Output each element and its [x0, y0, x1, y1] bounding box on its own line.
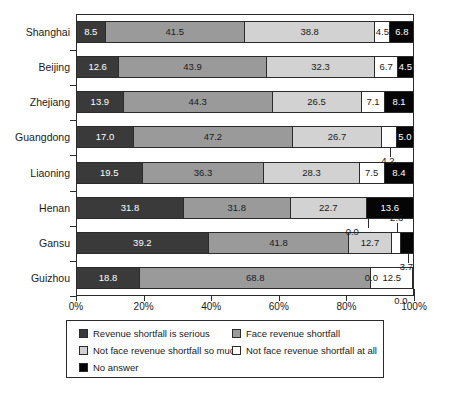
bar-value-label: 41.5 — [166, 27, 185, 37]
y-axis-tick — [70, 85, 76, 86]
bar-value-label: 26.7 — [328, 132, 347, 142]
bar-segment: 4.5 — [398, 57, 413, 77]
bar-value-label: 31.8 — [121, 203, 140, 213]
bar-value-label: 5.0 — [398, 132, 411, 142]
bar-segment: 4.5 — [375, 22, 390, 42]
stacked-bar-henan: 31.831.822.70.013.6 — [76, 197, 414, 219]
bar-value-label: 26.5 — [307, 97, 326, 107]
legend-swatch — [79, 329, 88, 338]
bar-value-label: 12.7 — [361, 238, 380, 248]
row-label-liaoning: Liaoning — [0, 168, 70, 179]
chart-legend: Revenue shortfall is seriousFace revenue… — [66, 320, 384, 378]
stacked-bar-chart: Shanghai8.541.538.84.56.8Beijing12.643.9… — [0, 0, 450, 393]
x-axis-tick-label: 100% — [394, 302, 434, 312]
legend-item: Revenue shortfall is serious — [79, 329, 210, 339]
row-label-guangdong: Guangdong — [0, 132, 70, 143]
bar-value-label: 0.0 — [365, 273, 378, 283]
bar-segment: 68.8 — [140, 268, 371, 288]
bar-value-label: 13.9 — [91, 97, 110, 107]
stacked-bar-beijing: 12.643.932.36.74.5 — [76, 56, 414, 78]
bar-value-label: 8.4 — [392, 168, 405, 178]
bar-segment: 44.3 — [124, 92, 273, 112]
legend-item: Not face revenue shortfall so much — [79, 346, 240, 356]
bar-segment: 41.5 — [106, 22, 245, 42]
bar-value-label: 43.9 — [183, 62, 202, 72]
bar-value-label: 19.5 — [100, 168, 119, 178]
bar-segment: 2.6 — [392, 233, 401, 253]
bar-segment: 6.7 — [375, 57, 398, 77]
legend-item: Not face revenue shortfall at all — [232, 346, 377, 356]
stacked-bar-shanghai: 8.541.538.84.56.8 — [76, 21, 414, 43]
legend-swatch — [79, 363, 88, 372]
x-axis-tick-label: 40% — [191, 302, 231, 312]
bar-segment: 8.4 — [385, 163, 413, 183]
bar-value-label: 41.8 — [269, 238, 288, 248]
callout-leader-line — [368, 219, 369, 228]
legend-item: No answer — [79, 363, 138, 373]
x-axis-tick-label: 0% — [56, 302, 96, 312]
bar-segment: 26.7 — [293, 127, 383, 147]
bar-value-label: 6.7 — [379, 62, 392, 72]
stacked-bar-guizhou: 18.868.80.012.50.0 — [76, 267, 414, 289]
bar-segment: 8.5 — [77, 22, 106, 42]
stacked-bar-zhejiang: 13.944.326.57.18.1 — [76, 91, 414, 113]
bar-segment: 28.3 — [264, 163, 359, 183]
callout-value-label: 0.0 — [346, 227, 359, 237]
row-label-shanghai: Shanghai — [0, 27, 70, 38]
y-axis-tick — [70, 261, 76, 262]
callout-value-label: 3.7 — [400, 262, 413, 272]
y-axis-tick — [70, 226, 76, 227]
legend-label: No answer — [93, 363, 138, 373]
bar-value-label: 31.8 — [228, 203, 247, 213]
bar-value-label: 12.6 — [88, 62, 107, 72]
legend-swatch — [79, 346, 88, 355]
bar-value-label: 32.3 — [311, 62, 330, 72]
bar-value-label: 7.5 — [365, 168, 378, 178]
y-axis-tick — [70, 191, 76, 192]
bar-value-label: 36.3 — [194, 168, 213, 178]
bar-value-label: 22.7 — [319, 203, 338, 213]
row-label-beijing: Beijing — [0, 62, 70, 73]
bar-value-label: 13.6 — [381, 203, 400, 213]
legend-label: Not face revenue shortfall so much — [93, 346, 240, 356]
bar-segment: 38.8 — [245, 22, 375, 42]
bar-value-label: 7.1 — [366, 97, 379, 107]
row-label-zhejiang: Zhejiang — [0, 97, 70, 108]
y-axis-tick — [70, 50, 76, 51]
bar-segment: 13.9 — [77, 92, 124, 112]
callout-leader-line — [397, 223, 398, 232]
bar-segment: 36.3 — [143, 163, 265, 183]
bar-value-label: 44.3 — [188, 97, 207, 107]
legend-label: Not face revenue shortfall at all — [246, 346, 377, 356]
callout-value-label: 4.2 — [381, 156, 394, 166]
bar-value-label: 68.8 — [246, 273, 265, 283]
bar-value-label: 47.2 — [204, 132, 223, 142]
bar-value-label: 28.3 — [302, 168, 321, 178]
bar-segment: 39.2 — [77, 233, 209, 253]
bar-segment: 4.2 — [382, 127, 396, 147]
stacked-bar-gansu: 39.241.812.72.63.7 — [76, 232, 414, 254]
x-axis-tick-label: 80% — [326, 302, 366, 312]
bar-segment: 3.7 — [401, 233, 413, 253]
legend-swatch — [232, 329, 241, 338]
bar-value-label: 6.8 — [395, 27, 408, 37]
stacked-bar-guangdong: 17.047.226.74.25.0 — [76, 126, 414, 148]
legend-label: Revenue shortfall is serious — [93, 329, 210, 339]
row-label-gansu: Gansu — [0, 238, 70, 249]
bar-value-label: 4.5 — [399, 62, 412, 72]
bar-segment: 47.2 — [134, 127, 293, 147]
legend-label: Face revenue shortfall — [246, 329, 340, 339]
bar-segment: 17.0 — [77, 127, 134, 147]
row-label-henan: Henan — [0, 203, 70, 214]
bar-segment: 12.6 — [77, 57, 119, 77]
bar-value-label: 8.5 — [84, 27, 97, 37]
bar-segment: 8.1 — [385, 92, 412, 112]
bar-value-label: 18.8 — [99, 273, 118, 283]
bar-segment: 6.8 — [390, 22, 413, 42]
bar-value-label: 4.5 — [376, 27, 389, 37]
stacked-bar-liaoning: 19.536.328.37.58.4 — [76, 162, 414, 184]
bar-segment: 7.5 — [360, 163, 385, 183]
bar-value-label: 17.0 — [96, 132, 115, 142]
bar-segment: 22.7 — [291, 198, 367, 218]
bar-segment: 32.3 — [267, 57, 376, 77]
